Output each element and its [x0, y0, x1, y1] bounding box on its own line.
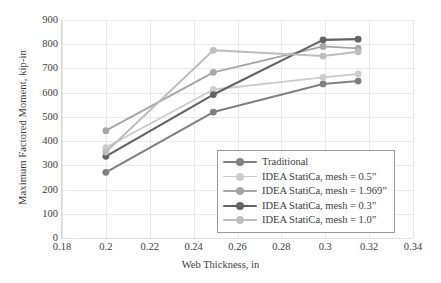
legend-swatch-icon — [223, 185, 257, 197]
data-point — [320, 43, 327, 50]
legend-item: IDEA StatiCa, mesh = 1.0” — [223, 213, 387, 228]
data-point — [355, 71, 362, 78]
y-tick-label: 700 — [42, 63, 58, 73]
data-point — [102, 127, 109, 134]
y-tick-label: 400 — [42, 136, 58, 146]
legend-label: IDEA StatiCa, mesh = 0.3” — [262, 200, 376, 212]
data-point — [210, 91, 217, 98]
legend-label: Traditional — [262, 156, 308, 168]
data-point — [355, 36, 362, 43]
legend-label: IDEA StatiCa, mesh = 1.0” — [262, 214, 376, 226]
data-point — [210, 47, 217, 54]
legend-label: IDEA StatiCa, mesh = 0.5” — [262, 171, 376, 183]
chart-legend: TraditionalIDEA StatiCa, mesh = 0.5”IDEA… — [217, 150, 395, 233]
data-point — [355, 48, 362, 55]
legend-marker-icon — [236, 216, 244, 224]
x-tick-label: 0.18 — [53, 241, 71, 252]
data-point — [102, 169, 109, 176]
series-4 — [102, 47, 361, 156]
y-tick-label: 300 — [42, 160, 58, 170]
legend-swatch-icon — [223, 171, 257, 183]
data-point — [320, 36, 327, 43]
series-line — [106, 46, 358, 130]
x-tick-label: 0.22 — [141, 241, 159, 252]
legend-item: IDEA StatiCa, mesh = 0.5” — [223, 170, 387, 185]
series-line — [106, 50, 358, 152]
data-point — [355, 78, 362, 85]
legend-item: IDEA StatiCa, mesh = 1.969” — [223, 184, 387, 199]
y-tick-label: 100 — [42, 209, 58, 219]
x-tick-label: 0.26 — [228, 241, 246, 252]
data-point — [320, 53, 327, 60]
legend-label: IDEA StatiCa, mesh = 1.969” — [262, 185, 387, 197]
data-point — [320, 74, 327, 81]
x-tick-label: 0.32 — [360, 241, 378, 252]
y-tick-label: 200 — [42, 185, 58, 195]
data-point — [320, 81, 327, 88]
legend-marker-icon — [236, 187, 244, 195]
legend-marker-icon — [236, 158, 244, 166]
x-tick-label: 0.24 — [184, 241, 202, 252]
y-tick-label: 500 — [42, 112, 58, 122]
legend-marker-icon — [236, 202, 244, 210]
y-tick-label: 800 — [42, 39, 58, 49]
y-tick-label: 600 — [42, 88, 58, 98]
x-tick-label: 0.3 — [319, 241, 332, 252]
legend-item: Traditional — [223, 155, 387, 170]
x-tick-label: 0.2 — [99, 241, 112, 252]
chart-figure: Maximum Factored Moment, kip-in 01002003… — [0, 0, 441, 283]
y-tick-label: 900 — [42, 15, 58, 25]
x-tick-label: 0.28 — [272, 241, 290, 252]
data-point — [210, 109, 217, 116]
legend-swatch-icon — [223, 200, 257, 212]
legend-swatch-icon — [223, 214, 257, 226]
x-axis-line — [61, 238, 413, 239]
data-point — [102, 149, 109, 156]
x-tick-label: 0.34 — [404, 241, 422, 252]
gridline-vertical — [413, 20, 414, 238]
legend-marker-icon — [236, 173, 244, 181]
data-point — [210, 69, 217, 76]
legend-item: IDEA StatiCa, mesh = 0.3” — [223, 199, 387, 214]
x-axis-tick-labels: 0.180.20.220.240.260.280.30.320.34 — [0, 241, 441, 257]
x-axis-title: Web Thickness, in — [0, 259, 441, 270]
legend-swatch-icon — [223, 156, 257, 168]
